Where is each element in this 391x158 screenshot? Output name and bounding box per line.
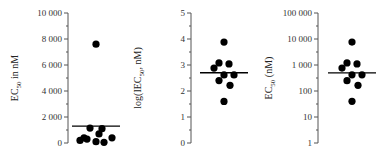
- data-point: [76, 137, 83, 144]
- data-point: [92, 41, 99, 48]
- chart-log-ec50: 012345log(IEC50, nM): [132, 8, 248, 148]
- data-point: [343, 59, 350, 66]
- y-tick-label: 4: [181, 34, 186, 44]
- y-tick-label: 5: [181, 8, 186, 18]
- y-tick-label: 10 000: [287, 34, 312, 44]
- figure-canvas: 02 0004 0006 0008 00010 000EC50 in nM 01…: [0, 0, 391, 158]
- data-point: [343, 77, 350, 84]
- y-tick-label: 3: [181, 60, 186, 70]
- data-point: [348, 38, 355, 45]
- data-point: [354, 82, 361, 89]
- y-tick-label: 100 000: [283, 8, 313, 18]
- y-tick-label: 8 000: [42, 34, 63, 44]
- y-tick-label: 100: [299, 86, 313, 96]
- y-tick-label: 0: [181, 138, 186, 148]
- y-tick-label: 10 000: [37, 8, 62, 18]
- data-point: [338, 64, 345, 71]
- data-point: [215, 77, 222, 84]
- y-tick-label: 1: [308, 138, 313, 148]
- data-point: [220, 98, 227, 105]
- data-point: [226, 82, 233, 89]
- data-point: [353, 60, 360, 67]
- y-tick-label: 6 000: [42, 60, 63, 70]
- y-axis-title: EC50 in nM: [9, 55, 23, 102]
- y-tick-label: 2 000: [42, 112, 63, 122]
- data-point: [215, 59, 222, 66]
- y-tick-label: 10: [303, 112, 313, 122]
- y-axis-title: EC50 (nM): [263, 57, 277, 100]
- y-tick-label: 1: [181, 112, 186, 122]
- y-tick-label: 4 000: [42, 86, 63, 96]
- data-point: [220, 39, 227, 46]
- data-point: [95, 130, 102, 137]
- data-point: [348, 98, 355, 105]
- y-tick-label: 0: [58, 138, 63, 148]
- data-point: [108, 134, 115, 141]
- data-point: [83, 136, 90, 143]
- y-axis-title: log(IEC50, nM): [132, 47, 146, 108]
- data-point: [100, 139, 107, 146]
- data-point: [210, 65, 217, 72]
- y-tick-label: 2: [181, 86, 186, 96]
- data-point: [92, 138, 99, 145]
- chart-ec50-linear: 02 0004 0006 0008 00010 000EC50 in nM: [9, 8, 120, 148]
- chart-ec50-log-scale: 1101001 00010 000100 000EC50 (nM): [263, 8, 376, 148]
- data-point: [225, 60, 232, 67]
- y-tick-label: 1 000: [292, 60, 313, 70]
